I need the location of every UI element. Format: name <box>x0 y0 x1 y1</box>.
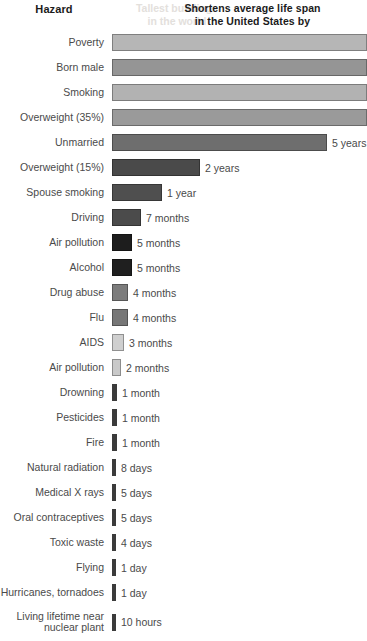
chart-row: Hurricanes, tornadoes1 day <box>0 580 355 605</box>
hazard-value-label: 5 days <box>121 505 152 530</box>
hazard-bar <box>112 34 367 51</box>
hazard-bar <box>112 384 117 401</box>
hazard-label: Fire <box>0 430 104 455</box>
chart-row: Overweight (15%)2 years <box>0 155 355 180</box>
hazard-value-label: 3 months <box>129 330 172 355</box>
hazard-label: Air pollution <box>0 230 104 255</box>
chart-row: Spouse smoking1 year <box>0 180 355 205</box>
hazard-value-label: 1 year <box>167 180 196 205</box>
hazard-bar <box>112 259 132 276</box>
chart-row: Fire1 month <box>0 430 355 455</box>
chart-row: Toxic waste4 days <box>0 530 355 555</box>
hazard-bar <box>112 209 141 226</box>
hazard-bar <box>112 359 121 376</box>
hazard-label: Drug abuse <box>0 280 104 305</box>
lifespan-header-line-2: in the United States by <box>195 15 310 27</box>
hazard-label: Flu <box>0 305 104 330</box>
chart-row: Natural radiation8 days <box>0 455 355 480</box>
hazard-bar <box>112 284 128 301</box>
hazard-label: Toxic waste <box>0 530 104 555</box>
chart-row: Drowning1 month <box>0 380 355 405</box>
hazard-bar <box>112 234 132 251</box>
chart-row: Air pollution2 months <box>0 355 355 380</box>
hazard-value-label: 2 months <box>126 355 169 380</box>
hazard-value-label: 1 month <box>122 380 160 405</box>
chart-row: Smoking <box>0 80 355 105</box>
hazard-value-label: 1 day <box>121 555 147 580</box>
hazard-bar <box>112 184 162 201</box>
chart-row: Air pollution5 months <box>0 230 355 255</box>
hazard-bar <box>112 134 327 151</box>
hazard-bar <box>112 434 117 451</box>
hazard-label: Drowning <box>0 380 104 405</box>
chart-row: Medical X rays5 days <box>0 480 355 505</box>
hazard-value-label: 8 days <box>121 455 152 480</box>
chart-header: Tallest buildings in the world Hazard Sh… <box>0 0 355 30</box>
hazard-column-header: Hazard <box>0 3 108 15</box>
hazard-bar <box>112 559 116 576</box>
hazard-label: Natural radiation <box>0 455 104 480</box>
hazard-value-label: 4 months <box>133 280 176 305</box>
hazard-label: Overweight (35%) <box>0 105 104 130</box>
hazard-bar <box>112 534 116 551</box>
hazard-bar <box>112 59 367 76</box>
chart-row: Poverty <box>0 30 355 55</box>
bar-chart-rows: PovertyBorn maleSmokingOverweight (35%)U… <box>0 30 355 639</box>
chart-row: Alcohol5 months <box>0 255 355 280</box>
hazard-value-label: 5 days <box>121 480 152 505</box>
hazard-bar <box>112 584 116 601</box>
hazard-bar <box>112 334 124 351</box>
hazard-label: Hurricanes, tornadoes <box>0 580 104 605</box>
hazard-value-label: 4 months <box>133 305 176 330</box>
hazard-label: Alcohol <box>0 255 104 280</box>
chart-row: Oral contraceptives5 days <box>0 505 355 530</box>
hazard-bar <box>112 309 128 326</box>
chart-row: Unmarried5 years <box>0 130 355 155</box>
hazard-label: Flying <box>0 555 104 580</box>
hazard-value-label: 5 months <box>137 255 180 280</box>
hazard-label: Smoking <box>0 80 104 105</box>
hazard-bar <box>112 159 200 176</box>
lifespan-column-header: Shortens average life span in the United… <box>150 2 355 28</box>
chart-row: Pesticides1 month <box>0 405 355 430</box>
hazard-value-label: 10 hours <box>121 605 162 639</box>
hazard-value-label: 5 months <box>137 230 180 255</box>
chart-row: AIDS3 months <box>0 330 355 355</box>
hazard-bar <box>112 614 116 631</box>
chart-row: Flying1 day <box>0 555 355 580</box>
hazard-label: Spouse smoking <box>0 180 104 205</box>
hazard-value-label: 1 month <box>122 405 160 430</box>
hazard-label: Unmarried <box>0 130 104 155</box>
chart-row: Born male <box>0 55 355 80</box>
hazard-value-label: 4 days <box>121 530 152 555</box>
hazard-bar <box>112 109 367 126</box>
hazard-value-label: 7 months <box>146 205 189 230</box>
hazard-label: Air pollution <box>0 355 104 380</box>
hazard-bar <box>112 509 116 526</box>
hazard-label: Driving <box>0 205 104 230</box>
hazard-label: Oral contraceptives <box>0 505 104 530</box>
hazard-value-label: 5 years <box>332 130 366 155</box>
lifespan-header-line-1: Shortens average life span <box>184 2 320 14</box>
hazard-bar <box>112 459 116 476</box>
hazard-value-label: 1 month <box>122 430 160 455</box>
hazard-value-label: 2 years <box>205 155 239 180</box>
chart-row: Overweight (35%) <box>0 105 355 130</box>
hazard-bar <box>112 84 367 101</box>
hazard-bar <box>112 409 117 426</box>
hazard-label: Born male <box>0 55 104 80</box>
chart-row: Living lifetime near nuclear plant10 hou… <box>0 605 355 639</box>
hazard-label: Pesticides <box>0 405 104 430</box>
chart-row: Driving7 months <box>0 205 355 230</box>
hazard-label: Living lifetime near nuclear plant <box>0 605 104 639</box>
chart-row: Flu4 months <box>0 305 355 330</box>
hazard-label: Overweight (15%) <box>0 155 104 180</box>
hazard-label: Medical X rays <box>0 480 104 505</box>
hazard-bar <box>112 484 116 501</box>
hazard-label: AIDS <box>0 330 104 355</box>
hazard-value-label: 1 day <box>121 580 147 605</box>
chart-row: Drug abuse4 months <box>0 280 355 305</box>
hazard-label: Poverty <box>0 30 104 55</box>
